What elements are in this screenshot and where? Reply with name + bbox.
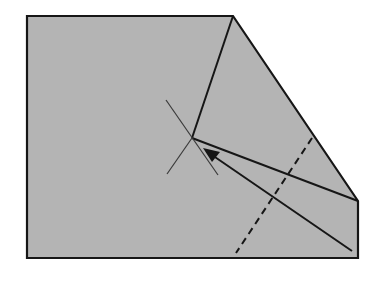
origami-diagram: [0, 0, 383, 284]
